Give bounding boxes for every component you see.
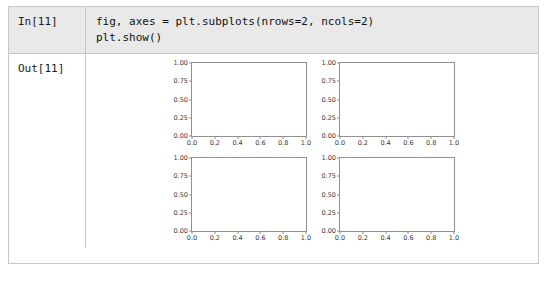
code-line-1: fig, axes = plt.subplots(nrows=2, ncols=… bbox=[96, 14, 538, 30]
xtick-label: 0.0 bbox=[187, 235, 197, 242]
xtick-label: 0.4 bbox=[380, 140, 390, 147]
xtick-label: 0.6 bbox=[255, 140, 265, 147]
axes-box-row0-col1: 0.000.250.500.751.000.00.20.40.60.81.0 bbox=[339, 62, 455, 137]
ytick-mark bbox=[337, 158, 340, 159]
ytick-mark bbox=[189, 81, 192, 82]
ytick-label: 1.00 bbox=[174, 60, 188, 67]
ytick-label: 0.50 bbox=[174, 96, 188, 103]
ytick-mark bbox=[189, 212, 192, 213]
subplot-row0-col0: 0.000.250.500.751.000.00.20.40.60.81.0 bbox=[164, 56, 312, 151]
ytick-mark bbox=[337, 99, 340, 100]
xtick-label: 0.6 bbox=[255, 235, 265, 242]
ytick-label: 0.00 bbox=[322, 228, 336, 235]
axes-box-row0-col0: 0.000.250.500.751.000.00.20.40.60.81.0 bbox=[191, 62, 307, 137]
ytick-label: 1.00 bbox=[174, 155, 188, 162]
notebook-cell-table: In[11] fig, axes = plt.subplots(nrows=2,… bbox=[8, 6, 539, 264]
xtick-label: 0.6 bbox=[403, 140, 413, 147]
xtick-label: 0.2 bbox=[358, 235, 368, 242]
ytick-mark bbox=[189, 117, 192, 118]
xtick-label: 1.0 bbox=[449, 235, 459, 242]
output-cell-content: 0.000.250.500.751.000.00.20.40.60.81.00.… bbox=[86, 54, 538, 248]
ytick-mark bbox=[337, 212, 340, 213]
ytick-mark bbox=[189, 194, 192, 195]
ytick-label: 1.00 bbox=[322, 60, 336, 67]
xtick-label: 0.0 bbox=[335, 140, 345, 147]
ytick-label: 0.75 bbox=[322, 173, 336, 180]
xtick-label: 0.2 bbox=[210, 235, 220, 242]
subplot-row1-col1: 0.000.250.500.751.000.00.20.40.60.81.0 bbox=[312, 151, 460, 246]
ytick-label: 0.00 bbox=[174, 133, 188, 140]
ytick-mark bbox=[337, 81, 340, 82]
ytick-mark bbox=[337, 63, 340, 64]
xtick-label: 0.4 bbox=[232, 140, 242, 147]
ytick-label: 0.00 bbox=[322, 133, 336, 140]
xtick-label: 0.0 bbox=[187, 140, 197, 147]
ytick-mark bbox=[189, 99, 192, 100]
matplotlib-figure: 0.000.250.500.751.000.00.20.40.60.81.00.… bbox=[164, 56, 461, 246]
output-cell-label: Out[11] bbox=[9, 54, 86, 248]
ytick-label: 0.75 bbox=[174, 78, 188, 85]
axes-box-row1-col0: 0.000.250.500.751.000.00.20.40.60.81.0 bbox=[191, 157, 307, 232]
xtick-label: 1.0 bbox=[301, 235, 311, 242]
ytick-mark bbox=[189, 158, 192, 159]
ytick-label: 0.50 bbox=[174, 191, 188, 198]
ytick-label: 0.75 bbox=[322, 78, 336, 85]
ytick-label: 0.75 bbox=[174, 173, 188, 180]
output-cell-row: Out[11] 0.000.250.500.751.000.00.20.40.6… bbox=[9, 54, 538, 248]
notebook-screenshot: In[11] fig, axes = plt.subplots(nrows=2,… bbox=[0, 0, 547, 282]
ytick-label: 0.50 bbox=[322, 191, 336, 198]
ytick-label: 0.25 bbox=[174, 114, 188, 121]
xtick-label: 0.2 bbox=[210, 140, 220, 147]
xtick-label: 0.8 bbox=[278, 140, 288, 147]
ytick-label: 0.25 bbox=[322, 209, 336, 216]
ytick-label: 1.00 bbox=[322, 155, 336, 162]
ytick-label: 0.00 bbox=[174, 228, 188, 235]
subplot-row0-col1: 0.000.250.500.751.000.00.20.40.60.81.0 bbox=[312, 56, 460, 151]
ytick-label: 0.50 bbox=[322, 96, 336, 103]
axes-box-row1-col1: 0.000.250.500.751.000.00.20.40.60.81.0 bbox=[339, 157, 455, 232]
xtick-label: 0.8 bbox=[426, 140, 436, 147]
subplot-row1-col0: 0.000.250.500.751.000.00.20.40.60.81.0 bbox=[164, 151, 312, 246]
xtick-label: 0.4 bbox=[380, 235, 390, 242]
xtick-label: 1.0 bbox=[449, 140, 459, 147]
xtick-label: 0.8 bbox=[426, 235, 436, 242]
subplot-grid: 0.000.250.500.751.000.00.20.40.60.81.00.… bbox=[164, 56, 461, 246]
ytick-label: 0.25 bbox=[322, 114, 336, 121]
xtick-label: 0.6 bbox=[403, 235, 413, 242]
ytick-mark bbox=[189, 176, 192, 177]
input-cell-label: In[11] bbox=[9, 7, 86, 53]
xtick-label: 0.2 bbox=[358, 140, 368, 147]
xtick-label: 0.4 bbox=[232, 235, 242, 242]
xtick-label: 0.8 bbox=[278, 235, 288, 242]
xtick-label: 1.0 bbox=[301, 140, 311, 147]
ytick-mark bbox=[337, 117, 340, 118]
xtick-label: 0.0 bbox=[335, 235, 345, 242]
ytick-mark bbox=[337, 194, 340, 195]
ytick-label: 0.25 bbox=[174, 209, 188, 216]
ytick-mark bbox=[189, 63, 192, 64]
code-line-2: plt.show() bbox=[96, 30, 538, 46]
ytick-mark bbox=[337, 176, 340, 177]
input-cell-row: In[11] fig, axes = plt.subplots(nrows=2,… bbox=[9, 7, 538, 54]
input-cell-code[interactable]: fig, axes = plt.subplots(nrows=2, ncols=… bbox=[86, 7, 538, 53]
